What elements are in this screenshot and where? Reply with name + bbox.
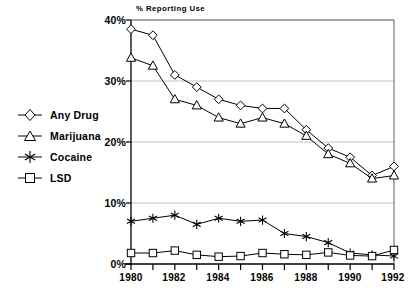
square-marker-icon (281, 251, 288, 258)
square-marker-icon (127, 249, 134, 256)
series-marijuana (126, 53, 398, 182)
square-marker-icon (325, 249, 332, 256)
triangle-marker-icon (324, 149, 333, 157)
diamond-marker-icon (214, 95, 223, 104)
triangle-marker-icon (126, 53, 135, 61)
triangle-marker-icon (258, 113, 267, 121)
square-marker-icon (259, 249, 266, 256)
square-marker-icon (193, 251, 200, 258)
square-marker-icon (171, 247, 178, 254)
square-marker-icon (237, 252, 244, 259)
plot-area (0, 0, 412, 298)
square-marker-icon (346, 252, 353, 259)
square-marker-icon (215, 253, 222, 260)
diamond-marker-icon (127, 25, 136, 34)
diamond-marker-icon (149, 31, 158, 40)
diamond-marker-icon (236, 101, 245, 110)
asterisk-marker-icon (193, 220, 201, 229)
triangle-marker-icon (389, 171, 398, 179)
diamond-marker-icon (390, 162, 399, 171)
square-marker-icon (149, 249, 156, 256)
diamond-marker-icon (258, 104, 267, 113)
square-marker-icon (303, 251, 310, 258)
square-marker-icon (390, 246, 397, 253)
series-any-drug (127, 25, 399, 180)
triangle-marker-icon (214, 113, 223, 121)
square-marker-icon (368, 252, 375, 259)
diamond-marker-icon (192, 83, 201, 92)
line-chart: % Reporting Use Any Drug Marijuana (0, 0, 412, 298)
diamond-marker-icon (170, 71, 179, 80)
triangle-marker-icon (170, 95, 179, 103)
asterisk-marker-icon (324, 238, 332, 247)
